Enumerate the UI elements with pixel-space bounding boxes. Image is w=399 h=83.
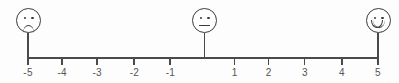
tick-label-3: 3 <box>302 67 308 78</box>
tick-label-minus2: -2 <box>130 67 139 78</box>
sad-face-icon <box>16 8 41 33</box>
tick-label-2: 2 <box>266 67 272 78</box>
tick-mark-1[interactable] <box>234 57 236 65</box>
tick-label-minus5: -5 <box>23 67 32 78</box>
neutral-face-right-eye <box>207 17 209 19</box>
tick-mark-5[interactable] <box>377 33 379 65</box>
sad-face-left-eye <box>24 17 26 19</box>
tick-mark-minus2[interactable] <box>133 57 135 65</box>
tick-label-minus1: -1 <box>166 67 175 78</box>
satisfaction-rating-scale[interactable]: -5-4-3-2-112345 <box>0 0 399 83</box>
sad-face-mouth <box>23 25 34 32</box>
happy-face-icon <box>366 8 391 33</box>
tick-label-minus4: -4 <box>57 67 66 78</box>
tick-mark-minus3[interactable] <box>96 57 98 65</box>
neutral-face-mouth <box>199 25 210 26</box>
happy-face-mouth <box>373 20 385 28</box>
tick-label-4: 4 <box>339 67 345 78</box>
tick-mark-minus1[interactable] <box>169 57 171 65</box>
tick-label-5: 5 <box>375 67 381 78</box>
tick-mark-3[interactable] <box>304 57 306 65</box>
sad-face-right-eye <box>31 17 33 19</box>
neutral-face-left-eye <box>200 17 202 19</box>
tick-label-minus3: -3 <box>93 67 102 78</box>
tick-mark-0[interactable] <box>204 33 206 58</box>
tick-mark-4[interactable] <box>341 57 343 65</box>
tick-mark-minus5[interactable] <box>27 33 29 65</box>
scale-axis-line <box>27 57 378 59</box>
neutral-face-icon <box>192 8 217 33</box>
tick-mark-minus4[interactable] <box>61 57 63 65</box>
tick-label-1: 1 <box>232 67 238 78</box>
tick-mark-2[interactable] <box>268 57 270 65</box>
